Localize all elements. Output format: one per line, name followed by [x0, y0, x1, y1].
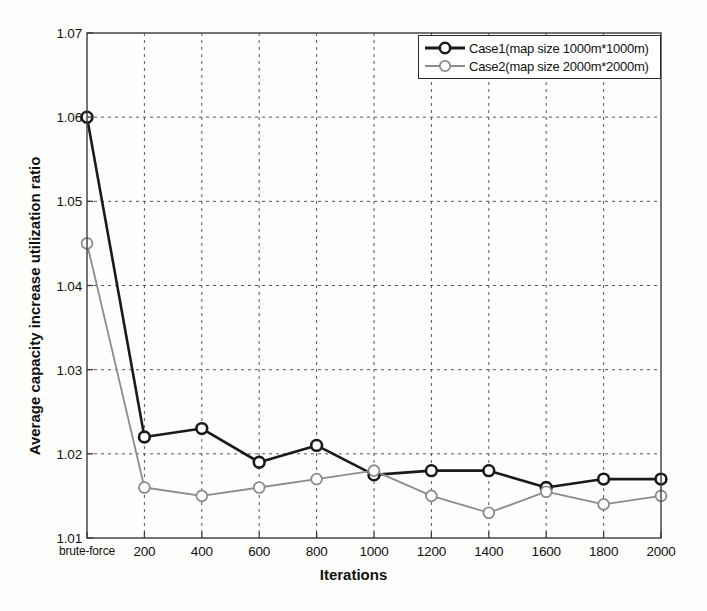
x-tick-label: 800	[306, 544, 328, 559]
gridlines	[87, 33, 661, 538]
chart-legend: Case1(map size 1000m*1000m) Case2(map si…	[418, 35, 661, 79]
x-tick-label: 1400	[474, 544, 503, 559]
y-tick-label: 1.03	[34, 362, 82, 377]
y-axis-label-wrap: Average capacity increase utilization ra…	[22, 0, 46, 611]
x-tick-label: 200	[133, 544, 155, 559]
legend-marker-case2	[423, 58, 467, 74]
x-tick-label: brute-force	[59, 544, 115, 558]
legend-item-case1: Case1(map size 1000m*1000m)	[423, 39, 656, 57]
y-tick-label: 1.04	[34, 278, 82, 293]
x-tick-label: 1800	[589, 544, 618, 559]
x-tick-label: 400	[191, 544, 213, 559]
legend-item-case2: Case2(map size 2000m*2000m)	[423, 57, 656, 75]
x-tick-label: 1200	[417, 544, 446, 559]
x-tick-label: 1000	[359, 544, 388, 559]
chart-figure: Average capacity increase utilization ra…	[0, 0, 707, 611]
y-tick-label: 1.02	[34, 446, 82, 461]
line-chart-plot	[0, 0, 707, 611]
x-axis-label: Iterations	[0, 566, 707, 583]
legend-label-case2: Case2(map size 2000m*2000m)	[469, 59, 649, 74]
y-tick-label: 1.06	[34, 110, 82, 125]
y-tick-label: 1.05	[34, 194, 82, 209]
x-tick-label: 1600	[532, 544, 561, 559]
legend-marker-case1	[423, 40, 467, 56]
x-tick-label: 600	[248, 544, 270, 559]
x-tick-label: 2000	[646, 544, 675, 559]
y-tick-label: 1.07	[34, 26, 82, 41]
legend-label-case1: Case1(map size 1000m*1000m)	[469, 41, 649, 56]
